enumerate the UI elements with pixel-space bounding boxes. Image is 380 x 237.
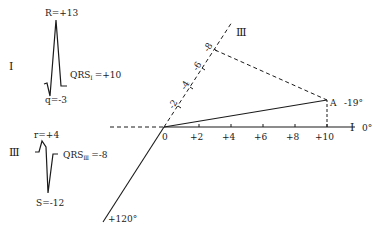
- ecg-axis-diagram: I R=+13 q=-3 QRSI=+10 Ⅲ r=+4 S=-12 QRSⅢ=…: [0, 0, 380, 237]
- lead-iii-qrs-complex: [35, 141, 58, 193]
- lead-i-q-label: q=-3: [45, 95, 67, 105]
- axis-system: 0 +2 +4 +6 +8 +10 I 0° +120° Ⅲ -2 -4 -6 …: [103, 22, 372, 224]
- lead-iii-s-label: S=-12: [36, 198, 64, 208]
- lead-iii-ticks: [178, 49, 217, 108]
- tick-label-plus-8: +8: [286, 132, 300, 142]
- tick-label-minus-8: -8: [201, 41, 214, 54]
- lead-iii-label: Ⅲ: [9, 146, 20, 159]
- tick-label-plus-2: +2: [190, 132, 203, 142]
- tick-label-minus-2: -2: [166, 98, 179, 111]
- lead-iii-axis-label: Ⅲ: [236, 26, 247, 39]
- lead-i-label: I: [9, 60, 13, 73]
- result-angle: -19°: [344, 98, 363, 108]
- lead-iii-axis-positive: [103, 127, 164, 222]
- tick-label-minus-6: -6: [190, 60, 203, 73]
- lead-i-qrs-complex: [44, 20, 67, 96]
- lead-iii-waveform: Ⅲ r=+4 S=-12 QRSⅢ=-8: [9, 130, 108, 208]
- lead-i-r-label: R=+13: [45, 8, 79, 18]
- lead-iii-r-label: r=+4: [34, 130, 59, 140]
- lead-i-axis-angle: 0°: [362, 123, 372, 133]
- tick-label-minus-4: -4: [178, 79, 191, 92]
- lead-i-waveform: I R=+13 q=-3 QRSI=+10: [9, 8, 122, 105]
- origin-label: 0: [162, 132, 168, 142]
- lead-i-axis-label: I: [350, 121, 354, 134]
- lead-iii-positive-angle: +120°: [108, 214, 137, 224]
- tick-label-plus-10: +10: [315, 132, 334, 142]
- lead-i-qrs-label: QRSI=+10: [70, 70, 122, 81]
- perpendicular-from-lead-iii: [215, 50, 327, 100]
- lead-iii-qrs-label: QRSⅢ=-8: [63, 150, 108, 161]
- point-a-label: A: [329, 98, 337, 108]
- mean-axis-vector: [164, 100, 327, 127]
- tick-label-plus-6: +6: [254, 132, 268, 142]
- tick-label-plus-4: +4: [222, 132, 236, 142]
